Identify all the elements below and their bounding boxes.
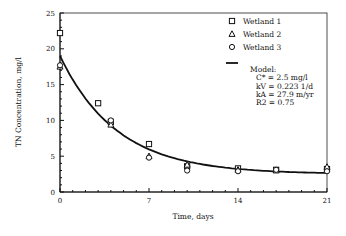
data-point-series-1 <box>146 141 151 146</box>
y-tick-label: 0 <box>51 189 55 197</box>
legend-label: Wetland 1 <box>243 17 281 26</box>
legend-marker-triangle <box>229 31 235 37</box>
data-point-series-3 <box>324 169 329 174</box>
x-axis-label: Time, days <box>172 212 213 221</box>
legend: Wetland 1Wetland 2Wetland 3Model:C* = 2.… <box>226 17 314 108</box>
data-point-series-3 <box>146 155 151 160</box>
legend-marker-circle <box>229 44 234 49</box>
y-axis-label: TN Concentration, mg/l <box>14 56 23 147</box>
data-point-series-3 <box>185 168 190 173</box>
x-axis: 071421 <box>58 188 332 205</box>
legend-label: Wetland 2 <box>243 30 281 39</box>
data-point-series-3 <box>235 169 240 174</box>
y-tick-label: 15 <box>46 81 55 89</box>
data-point-series-3 <box>274 167 279 172</box>
y-axis: 0510152025 <box>46 10 64 197</box>
y-tick-label: 20 <box>46 45 55 53</box>
data-point-series-1 <box>96 101 101 106</box>
chart: 0510152025 071421 TN Concentration, mg/l… <box>0 0 346 236</box>
x-tick-label: 0 <box>58 197 62 205</box>
y-tick-label: 10 <box>46 117 55 125</box>
data-point-series-1 <box>57 30 62 35</box>
y-tick-label: 25 <box>46 10 55 18</box>
data-point-series-3 <box>108 118 113 123</box>
legend-marker-square <box>229 18 234 23</box>
x-tick-label: 21 <box>323 197 332 205</box>
x-tick-label: 14 <box>234 197 243 205</box>
model-parameter: R2 = 0.75 <box>256 98 294 107</box>
y-tick-label: 5 <box>51 153 55 161</box>
legend-label: Wetland 3 <box>243 43 281 52</box>
x-tick-label: 7 <box>147 197 151 205</box>
data-point-series-3 <box>57 63 62 68</box>
